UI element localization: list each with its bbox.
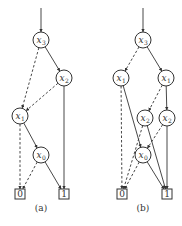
- low-edge-b-x1L-t0: [121, 86, 122, 189]
- variable-label: x: [140, 113, 145, 123]
- high-edge-a-x1-x0: [24, 123, 37, 148]
- low-edge-b-x3-x1L: [125, 47, 139, 71]
- decision-node-b-x2R: x2: [159, 110, 175, 126]
- variable-subscript: 1: [122, 77, 126, 84]
- variable-subscript: 0: [144, 154, 148, 161]
- decision-node-b-x1L: x1: [113, 70, 129, 86]
- variable-label: x: [36, 35, 41, 45]
- terminal-label: 0: [17, 189, 23, 199]
- panel-caption-b: (b): [137, 203, 150, 213]
- panel-caption-a: (a): [35, 203, 47, 213]
- low-edge-a-x3-x1: [22, 48, 39, 109]
- variable-subscript: 1: [167, 77, 171, 84]
- decision-node-b-x2L: x2: [137, 110, 153, 126]
- variable-label: x: [15, 111, 20, 121]
- decision-node-a-x1: x1: [12, 108, 28, 124]
- variable-label: x: [161, 73, 166, 83]
- high-edge-b-x1R-x2R: [166, 86, 167, 110]
- low-edge-a-x0-t0: [23, 162, 38, 189]
- terminal-node-a-t1: 1: [59, 189, 69, 199]
- high-edge-b-x3-x1R: [147, 47, 162, 71]
- decision-node-a-x0: x0: [33, 147, 49, 163]
- low-edge-b-x1R-x2L: [149, 85, 163, 111]
- terminal-label: 0: [119, 189, 125, 199]
- decision-node-a-x3: x3: [33, 32, 49, 48]
- variable-label: x: [59, 73, 64, 83]
- decision-node-b-x3: x3: [135, 32, 151, 48]
- variable-subscript: 3: [42, 39, 46, 46]
- variable-label: x: [36, 150, 41, 160]
- variable-subscript: 1: [21, 115, 25, 122]
- terminal-label: 1: [61, 189, 67, 199]
- variable-label: x: [138, 35, 143, 45]
- captions-layer: (a)(b): [35, 203, 150, 213]
- variable-subscript: 2: [146, 117, 150, 124]
- terminal-node-a-t0: 0: [15, 189, 25, 199]
- variable-label: x: [162, 113, 167, 123]
- variable-subscript: 3: [144, 39, 148, 46]
- terminal-node-b-t0: 0: [117, 189, 127, 199]
- low-edge-b-x2R-x0: [147, 125, 162, 149]
- low-edge-a-x2-x1: [26, 83, 58, 111]
- bdd-diagram: x3x2x1x001x3x1x1x2x2x001 (a)(b): [0, 0, 182, 226]
- decision-node-a-x2: x2: [56, 70, 72, 86]
- variable-label: x: [116, 73, 121, 83]
- variable-label: x: [138, 150, 143, 160]
- high-edge-a-x3-x2: [45, 47, 60, 71]
- terminal-label: 1: [164, 189, 170, 199]
- variable-subscript: 0: [42, 154, 46, 161]
- decision-node-b-x1R: x1: [158, 70, 174, 86]
- low-edge-b-x0-t0: [125, 162, 140, 189]
- terminal-node-b-t1: 1: [162, 189, 172, 199]
- decision-node-b-x0: x0: [135, 147, 151, 163]
- variable-subscript: 2: [65, 77, 69, 84]
- variable-subscript: 2: [168, 117, 172, 124]
- high-edge-a-x0-t1: [45, 162, 61, 189]
